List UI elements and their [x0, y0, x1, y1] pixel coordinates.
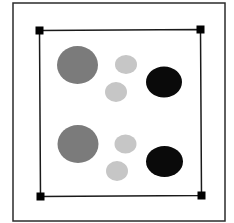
diagram-canvas	[0, 0, 234, 223]
small-light-circle-lower[interactable]	[105, 82, 127, 102]
large-gray-circle[interactable]	[58, 125, 99, 163]
black-ellipse[interactable]	[146, 67, 182, 98]
resize-handle-top-right[interactable]	[197, 26, 205, 34]
large-gray-circle[interactable]	[57, 46, 98, 84]
small-light-circle-lower[interactable]	[106, 161, 128, 181]
resize-handle-top-left[interactable]	[36, 27, 44, 35]
resize-handle-bottom-right[interactable]	[198, 192, 206, 200]
black-ellipse[interactable]	[146, 146, 183, 177]
resize-handle-bottom-left[interactable]	[37, 193, 45, 201]
small-light-circle-upper[interactable]	[115, 55, 137, 74]
small-light-circle-upper[interactable]	[115, 135, 137, 154]
